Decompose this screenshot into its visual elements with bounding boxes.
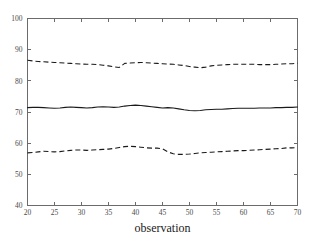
y-tick-label: 70: [15, 108, 23, 117]
x-tick-label: 20: [24, 208, 32, 217]
x-tick-label: 45: [159, 208, 167, 217]
plot-frame: [28, 19, 298, 206]
x-tick-label: 25: [51, 208, 59, 217]
x-axis-title: observation: [135, 221, 191, 235]
line-chart-plot: 2025303540455055606570405060708090100obs…: [0, 0, 315, 244]
y-tick-label: 90: [15, 45, 23, 54]
series-line-lower-band: [28, 146, 298, 154]
y-tick-label: 100: [11, 14, 23, 23]
y-tick-label: 80: [15, 77, 23, 86]
x-tick-label: 70: [294, 208, 302, 217]
x-tick-label: 55: [213, 208, 221, 217]
x-tick-label: 50: [186, 208, 194, 217]
y-tick-label: 60: [15, 139, 23, 148]
chart-figure: 2025303540455055606570405060708090100obs…: [0, 0, 315, 244]
y-tick-label: 50: [15, 170, 23, 179]
x-tick-label: 60: [240, 208, 248, 217]
x-tick-label: 30: [78, 208, 86, 217]
x-tick-label: 40: [132, 208, 140, 217]
y-tick-label: 40: [15, 201, 23, 210]
series-line-center-line: [28, 105, 298, 111]
x-tick-label: 65: [267, 208, 275, 217]
x-tick-label: 35: [105, 208, 113, 217]
series-line-upper-band: [28, 60, 298, 67]
